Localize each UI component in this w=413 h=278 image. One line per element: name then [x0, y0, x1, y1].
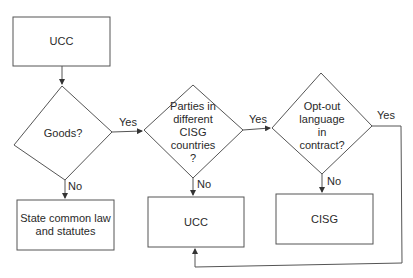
cisg-countries-line-5: ? [190, 152, 196, 165]
cisg-result-label: CISG [276, 194, 373, 244]
goods-yes-label: Yes [119, 116, 137, 128]
cisg-countries-line-3: CISG [180, 126, 207, 139]
goods-label: Goods? [14, 120, 112, 146]
opt-out-label: Opt-out language in contract? [283, 96, 361, 156]
countries-yes-label: Yes [249, 113, 267, 125]
opt-out-line-2: language [299, 113, 344, 126]
state-law-line-2: and statutes [36, 225, 96, 238]
opt-out-line-3: in [318, 126, 327, 139]
cisg-countries-label: Parties in different CISG countries ? [154, 94, 232, 170]
cisg-countries-line-4: countries [171, 139, 216, 152]
countries-no-label: No [197, 178, 211, 190]
cisg-countries-line-2: different [173, 113, 213, 126]
goods-no-label: No [68, 180, 82, 192]
cisg-countries-line-1: Parties in [170, 100, 216, 113]
edge-goods-yes [112, 131, 142, 132]
optout-no-label: No [327, 175, 341, 187]
optout-yes-label: Yes [377, 109, 395, 121]
ucc-result-label: UCC [148, 197, 244, 247]
start-ucc-label: UCC [13, 17, 110, 66]
state-law-label: State common law and statutes [17, 200, 114, 250]
opt-out-line-4: contract? [299, 139, 344, 152]
edge-countries-yes [243, 128, 270, 130]
opt-out-line-1: Opt-out [304, 100, 341, 113]
state-law-line-1: State common law [20, 212, 110, 225]
